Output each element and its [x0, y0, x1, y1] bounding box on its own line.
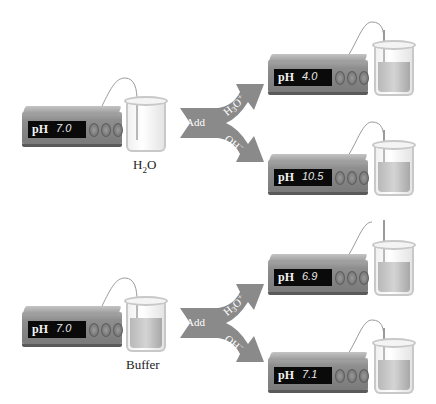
knobs — [89, 123, 123, 137]
beaker — [126, 100, 166, 152]
water-base-setup: pH10.5 — [260, 120, 436, 210]
ph-meter: pH 7.0 — [22, 112, 122, 144]
caption-water: H2O — [133, 157, 156, 175]
ph-display: pH 7.0 — [28, 121, 86, 138]
water-setup: pH 7.0 H2O — [0, 60, 180, 180]
water-acid-setup: pH4.0 — [260, 20, 436, 120]
buffer-base-setup: pH7.1 — [260, 310, 436, 404]
ph-meter: pH4.0 — [268, 60, 368, 92]
buffer-setup: pH7.0 Buffer — [0, 260, 180, 380]
buffer-acid-setup: pH6.9 — [260, 220, 436, 310]
split-arrow: Add H3O+ OH− — [178, 78, 268, 168]
svg-text:Add: Add — [186, 316, 205, 328]
split-arrow: Add H3O+ OH− — [178, 278, 268, 368]
caption-buffer: Buffer — [126, 357, 160, 373]
ph-value: 7.0 — [56, 122, 71, 134]
svg-text:Add: Add — [186, 116, 205, 128]
